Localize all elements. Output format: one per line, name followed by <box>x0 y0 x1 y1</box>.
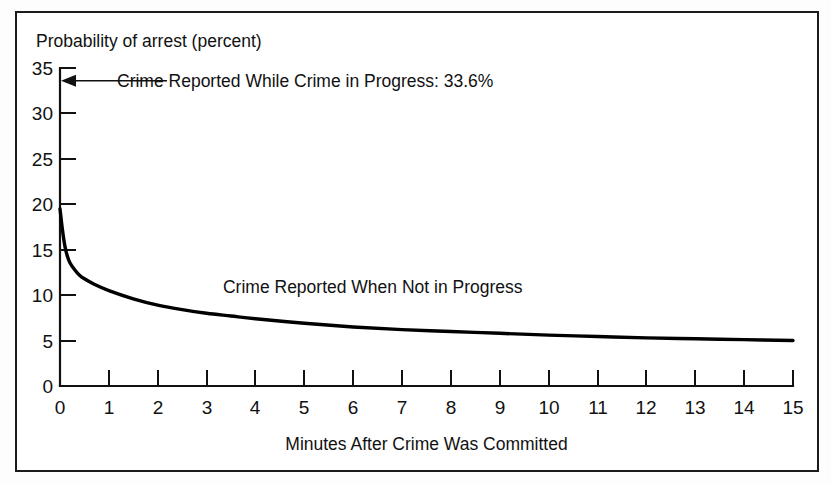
x-tick-label-6: 6 <box>348 397 359 418</box>
y-tick-label-20: 20 <box>32 194 53 215</box>
not-in-progress-curve-label: Crime Reported When Not in Progress <box>223 277 523 297</box>
chart-canvas: Probability of arrest (percent) 35 30 25… <box>0 0 831 484</box>
x-tick-label-1: 1 <box>104 397 115 418</box>
y-axis-title: Probability of arrest (percent) <box>36 31 262 51</box>
x-tick-label-4: 4 <box>250 397 261 418</box>
x-tick-label-5: 5 <box>299 397 310 418</box>
x-tick-label-10: 10 <box>538 397 559 418</box>
x-axis-tick-labels: 0 1 2 3 4 5 6 7 8 9 10 11 12 13 14 15 <box>55 397 804 418</box>
x-tick-label-11: 11 <box>588 397 608 418</box>
x-tick-label-0: 0 <box>55 397 66 418</box>
annotation-arrow-icon <box>61 75 76 87</box>
y-tick-label-35: 35 <box>32 58 53 79</box>
y-tick-label-0: 0 <box>42 376 53 397</box>
y-tick-label-15: 15 <box>32 240 53 261</box>
in-progress-annotation-label: Crime Reported While Crime in Progress: … <box>117 71 493 91</box>
x-tick-label-14: 14 <box>733 397 755 418</box>
figure-root: Probability of arrest (percent) 35 30 25… <box>0 0 831 484</box>
x-tick-label-15: 15 <box>782 397 803 418</box>
x-tick-label-3: 3 <box>202 397 213 418</box>
x-axis-ticks <box>60 370 793 386</box>
y-tick-label-30: 30 <box>32 103 53 124</box>
y-axis-tick-labels: 35 30 25 20 15 10 5 0 <box>32 58 53 397</box>
x-tick-label-8: 8 <box>446 397 457 418</box>
x-tick-label-12: 12 <box>635 397 656 418</box>
y-tick-label-25: 25 <box>32 149 53 170</box>
data-curve-not-in-progress <box>60 209 793 341</box>
x-tick-label-9: 9 <box>495 397 506 418</box>
x-tick-label-7: 7 <box>397 397 408 418</box>
y-tick-label-5: 5 <box>42 331 53 352</box>
x-tick-label-13: 13 <box>684 397 705 418</box>
y-tick-label-10: 10 <box>32 285 53 306</box>
x-axis-title: Minutes After Crime Was Committed <box>285 434 567 454</box>
in-progress-annotation: Crime Reported While Crime in Progress: … <box>61 71 493 91</box>
x-tick-label-2: 2 <box>153 397 164 418</box>
